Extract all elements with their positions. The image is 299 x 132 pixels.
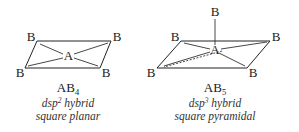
ab5-ligand-bottom-left: B [147,65,156,80]
ab4-figure: A B B B B AB4 dsp2 hybrid square planar [16,29,122,123]
ab5-central-atom: A [210,42,220,57]
ab4-ligand-top-right: B [113,29,122,44]
ab5-ligand-bottom-right: B [249,65,258,80]
ab4-formula: AB4 [57,80,80,97]
ab5-ligand-axial: B [211,4,220,19]
ab5-geometry: square pyramidal [174,110,255,123]
ab5-bond-bottom-left [164,52,210,66]
hybridization-diagram: A B B B B AB4 dsp2 hybrid square planar … [0,0,299,132]
ab5-bond-top-left [184,43,210,49]
ab4-central-atom: A [64,48,74,63]
ab5-figure: A B B B B B AB5 dsp3 hybrid square pyram… [147,4,281,123]
ab4-bond-bottom-left [28,58,63,66]
ab4-ligand-bottom-left: B [16,65,25,80]
ab4-ligand-top-left: B [27,29,36,44]
ab5-ligand-top-left: B [171,29,180,44]
ab4-ligand-bottom-right: B [102,65,111,80]
ab4-bond-bottom-right [74,58,98,66]
ab4-bond-top-left [40,44,63,54]
ab5-bond-bottom-right [219,53,245,66]
ab5-ligand-top-right: B [272,29,281,44]
ab4-geometry: square planar [36,110,101,123]
ab4-bond-top-right [74,43,108,54]
ab5-hybridization: dsp3 hybrid [189,96,242,110]
ab5-bond-top-right [221,42,267,49]
ab4-hybridization: dsp2 hybrid [42,96,95,110]
ab5-formula: AB5 [204,80,226,97]
